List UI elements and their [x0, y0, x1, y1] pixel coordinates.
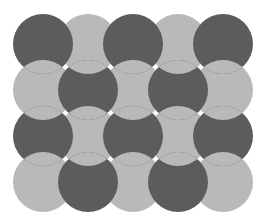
circles-canvas [0, 0, 267, 224]
woven-circles-figure: Woven circle grid illusion [0, 0, 267, 224]
